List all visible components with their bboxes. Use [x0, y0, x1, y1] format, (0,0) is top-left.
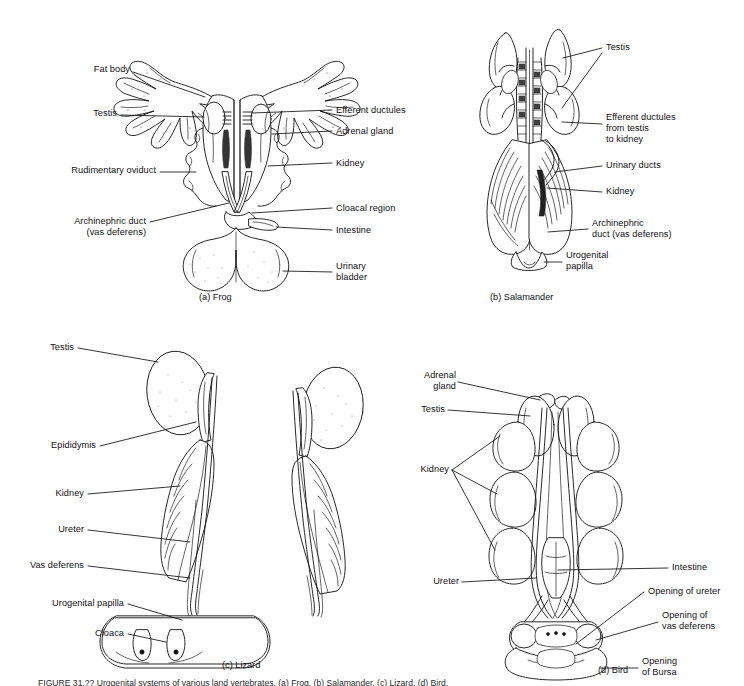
label-lizard-urogenital-papilla: Urogenital papilla — [0, 598, 124, 609]
label-urinary-bladder: Urinary bladder — [336, 261, 367, 283]
frog-archinephric-duct — [222, 172, 252, 212]
label-bird-opening-of-bursa: Opening of Bursa — [642, 656, 677, 678]
label-testis: Testis — [0, 108, 117, 119]
panel-frog: Fat body Testis Rudimentary oviduct Arch… — [0, 0, 440, 310]
label-lizard-cloaca: Cloaca — [0, 628, 124, 639]
label-adrenal-gland: Adrenal gland — [336, 126, 393, 137]
leader-kidney-3 — [452, 470, 495, 550]
label-bird-testis: Testis — [400, 404, 445, 415]
label-kidney: Kidney — [336, 158, 364, 169]
label-bird-opening-of-ureter: Opening of ureter — [648, 586, 720, 597]
leader-kidney-1 — [452, 436, 500, 470]
lizard-kidney-right — [292, 456, 345, 594]
leader-adrenal-gland — [458, 382, 540, 400]
leader-testis — [448, 410, 530, 416]
label-bird-kidney: Kidney — [400, 464, 449, 475]
caption-salamander: (b) Salamander — [490, 292, 553, 303]
panel-bird: Adrenal gland Testis Kidney Ureter Intes… — [400, 360, 744, 680]
leader-kidney — [268, 163, 332, 166]
caption-bird: (d) Bird — [598, 665, 628, 676]
leader-cloacal-region — [252, 208, 332, 213]
frog-testis-left — [203, 102, 225, 134]
frog-intestine — [249, 219, 278, 231]
label-cloacal-region: Cloacal region — [336, 203, 395, 214]
label-bird-adrenal-gland: Adrenal gland — [400, 370, 456, 392]
bird-kidney-right — [576, 422, 623, 584]
label-rudimentary-oviduct: Rudimentary oviduct — [0, 165, 156, 176]
frog-adrenal-gland — [223, 130, 252, 168]
leader-urinary-bladder — [283, 271, 332, 272]
label-salamander-testis: Testis — [606, 42, 630, 53]
label-salamander-archinephric-duct: Archinephric duct (vas deferens) — [592, 218, 672, 240]
frog-illustration — [0, 0, 440, 310]
label-lizard-epididymis: Epididymis — [0, 440, 96, 451]
label-efferent-ductules: Efferent ductules — [336, 105, 406, 116]
frog-urinary-bladder — [183, 228, 289, 291]
leader-kidney — [88, 486, 180, 494]
leader-testis — [78, 348, 158, 362]
salamander-urogenital-papilla — [511, 252, 547, 271]
label-lizard-vas-deferens: Vas deferens — [0, 560, 84, 571]
label-fat-body: Fat body — [0, 64, 130, 75]
label-bird-ureter: Ureter — [400, 576, 459, 587]
figure-caption: FIGURE 31.?? Urogenital systems of vario… — [38, 678, 738, 686]
bird-cloaca — [505, 596, 607, 680]
leader-archinephric-duct — [150, 203, 229, 222]
bird-intestine — [542, 538, 571, 598]
label-salamander-kidney: Kidney — [606, 186, 634, 197]
label-bird-intestine: Intestine — [672, 562, 707, 573]
label-lizard-ureter: Ureter — [0, 524, 84, 535]
frog-rudimentary-oviduct — [184, 128, 291, 206]
label-intestine: Intestine — [336, 225, 371, 236]
panel-salamander: Testis Efferent ductules from testis to … — [450, 0, 744, 310]
caption-lizard: (c) Lizard — [222, 660, 260, 671]
leader-intestine — [276, 227, 332, 230]
label-salamander-urinary-ducts: Urinary ducts — [606, 160, 661, 171]
frog-testis-right — [251, 104, 271, 134]
label-salamander-urogenital-papilla: Urogenital papilla — [566, 250, 608, 272]
label-salamander-efferent-ductules: Efferent ductules from testis to kidney — [606, 112, 676, 146]
label-lizard-kidney: Kidney — [0, 488, 84, 499]
label-lizard-testis: Testis — [0, 342, 74, 353]
urogenital-systems-figure: Fat body Testis Rudimentary oviduct Arch… — [0, 0, 744, 686]
panel-lizard: Testis Epididymis Kidney Ureter Vas defe… — [0, 330, 400, 680]
leader-opening-vas-deferens — [596, 622, 658, 640]
label-archinephric-duct: Archinephric duct (vas deferens) — [0, 216, 146, 238]
caption-frog: (a) Frog — [199, 292, 232, 303]
label-bird-opening-vas-deferens: Opening of vas deferens — [662, 610, 715, 632]
salamander-kidney — [487, 140, 572, 254]
bird-kidney-left — [489, 422, 536, 584]
